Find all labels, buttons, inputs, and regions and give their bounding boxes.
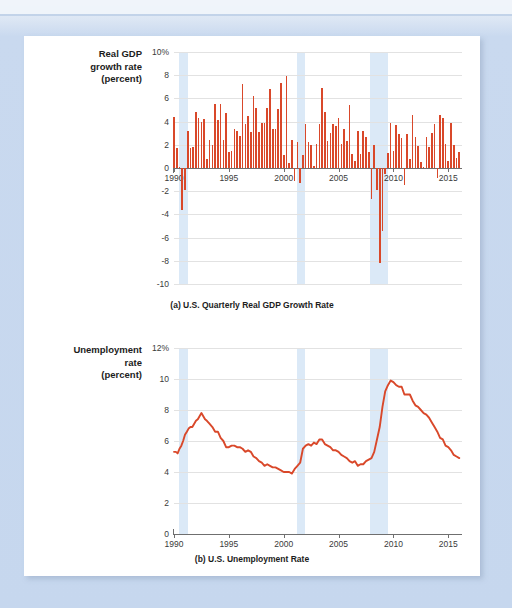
- bar: [179, 167, 181, 168]
- bar: [395, 125, 397, 168]
- bar: [234, 129, 236, 168]
- x-axis-tick-label: 1995: [219, 539, 238, 549]
- bar: [379, 168, 381, 263]
- bar: [198, 118, 200, 168]
- bar: [283, 155, 285, 168]
- bar: [225, 113, 227, 168]
- x-axis-tick-label: 1990: [165, 539, 184, 549]
- bar: [398, 134, 400, 168]
- y-axis-tick-label: 8: [164, 70, 169, 80]
- bar: [250, 132, 252, 168]
- bar: [272, 129, 274, 168]
- chart-unemployment-plot-area: 12%1086420199019952000200520102015: [174, 348, 462, 534]
- bar: [217, 120, 219, 168]
- x-axis-tick-label: 2005: [329, 173, 348, 183]
- x-axis-line: [174, 534, 462, 535]
- bar: [384, 168, 386, 174]
- bar: [321, 88, 323, 168]
- bar: [192, 147, 194, 168]
- page-top-strip: [0, 0, 512, 16]
- bar: [450, 123, 452, 168]
- zero-axis-line: [174, 168, 462, 169]
- bar: [349, 105, 351, 168]
- chart-unemployment-axis-title: Unemployment rate (percent): [28, 344, 142, 382]
- bar: [297, 142, 299, 168]
- bar: [280, 83, 282, 168]
- y-axis-tick-label: -4: [161, 209, 169, 219]
- gridline: [174, 214, 462, 215]
- x-axis-tick-label: 2010: [384, 539, 403, 549]
- unemp-ylabel-line-3: (percent): [28, 369, 142, 382]
- bar: [288, 163, 290, 168]
- bar: [437, 168, 439, 178]
- y-axis-tick-label: 0: [164, 163, 169, 173]
- bar: [291, 140, 293, 168]
- gdp-ylabel-line-3: (percent): [34, 73, 142, 86]
- y-axis-tick-label: 2: [164, 498, 169, 508]
- bar: [351, 154, 353, 168]
- bar: [247, 116, 249, 168]
- unemp-ylabel-line-1: Unemployment: [28, 344, 142, 357]
- bar: [319, 124, 321, 168]
- bar: [203, 119, 205, 168]
- bar: [324, 112, 326, 168]
- y-axis-tick-label: 0: [164, 529, 169, 539]
- x-axis-tick-mark: [393, 168, 394, 172]
- bar: [445, 144, 447, 168]
- y-axis-tick-label: -6: [161, 233, 169, 243]
- bar: [264, 123, 266, 168]
- bar: [343, 129, 345, 168]
- chart-unemployment-caption: (b) U.S. Unemployment Rate: [24, 554, 480, 564]
- bar: [417, 146, 419, 168]
- x-axis-tick-mark: [229, 168, 230, 172]
- bar: [209, 140, 211, 168]
- bar: [442, 118, 444, 168]
- bar: [212, 145, 214, 168]
- bar: [305, 124, 307, 168]
- bar: [187, 131, 189, 168]
- bar: [387, 153, 389, 168]
- bar: [360, 154, 362, 168]
- chart-gdp-plot-area: 10%86420-2-4-6-8-10199019952000200520102…: [174, 52, 462, 284]
- x-axis-tick-mark: [448, 168, 449, 172]
- bar: [269, 89, 271, 168]
- bar: [214, 104, 216, 168]
- bar: [341, 144, 343, 168]
- y-axis-tick-label: 2: [164, 140, 169, 150]
- bar: [362, 131, 364, 168]
- bar: [368, 152, 370, 168]
- chart-gdp-axis-title: Real GDP growth rate (percent): [34, 48, 142, 86]
- bar: [346, 141, 348, 168]
- y-axis-tick-label: 6: [164, 436, 169, 446]
- gridline: [174, 191, 462, 192]
- bar: [335, 126, 337, 168]
- bar: [354, 161, 356, 168]
- bar: [434, 124, 436, 168]
- bar: [431, 133, 433, 168]
- bar: [294, 168, 296, 181]
- bar: [456, 158, 458, 168]
- y-axis-tick-label: 12%: [152, 343, 169, 353]
- bar: [310, 145, 312, 168]
- bar: [406, 134, 408, 168]
- y-axis-tick-label: 10: [160, 374, 169, 384]
- bar: [176, 148, 178, 168]
- bar: [423, 167, 425, 168]
- bar: [439, 115, 441, 168]
- chart-gdp-caption: (a) U.S. Quarterly Real GDP Growth Rate: [24, 300, 480, 310]
- x-axis-tick-label: 2000: [274, 539, 293, 549]
- y-axis-tick-label: -2: [161, 186, 169, 196]
- bar: [302, 155, 304, 168]
- page-root: Real GDP growth rate (percent) 10%86420-…: [0, 0, 512, 608]
- gdp-ylabel-line-1: Real GDP: [34, 48, 142, 61]
- bar: [253, 96, 255, 168]
- gridline: [174, 284, 462, 285]
- y-axis-stub: [173, 529, 174, 535]
- x-axis-tick-label: 1995: [219, 173, 238, 183]
- bar: [428, 147, 430, 168]
- bar: [173, 117, 175, 168]
- bar: [390, 123, 392, 168]
- y-axis-tick-label: -8: [161, 256, 169, 266]
- bar: [299, 168, 301, 183]
- bar: [338, 118, 340, 168]
